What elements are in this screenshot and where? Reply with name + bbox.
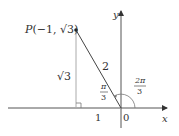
y-axis-label: y [112, 9, 119, 20]
angle-label-2pi-3: 2π 3 [134, 76, 146, 96]
diagram-canvas: P(−1, √3) y x 0 1 2 √3 π 3 2π 3 [0, 0, 179, 136]
svg-text:3: 3 [137, 87, 142, 96]
vertical-side-label: √3 [57, 70, 71, 83]
hypotenuse-label: 2 [102, 60, 109, 73]
svg-text:π: π [100, 82, 107, 91]
svg-text:3: 3 [101, 93, 106, 102]
point-p-label: P(−1, √3) [24, 23, 78, 36]
origin-label: 0 [123, 112, 129, 123]
angle-label-pi-3: π 3 [100, 82, 108, 102]
base-label: 1 [95, 112, 101, 123]
svg-text:2π: 2π [134, 76, 146, 85]
x-axis-label: x [162, 113, 168, 124]
right-angle-mark [76, 103, 81, 108]
